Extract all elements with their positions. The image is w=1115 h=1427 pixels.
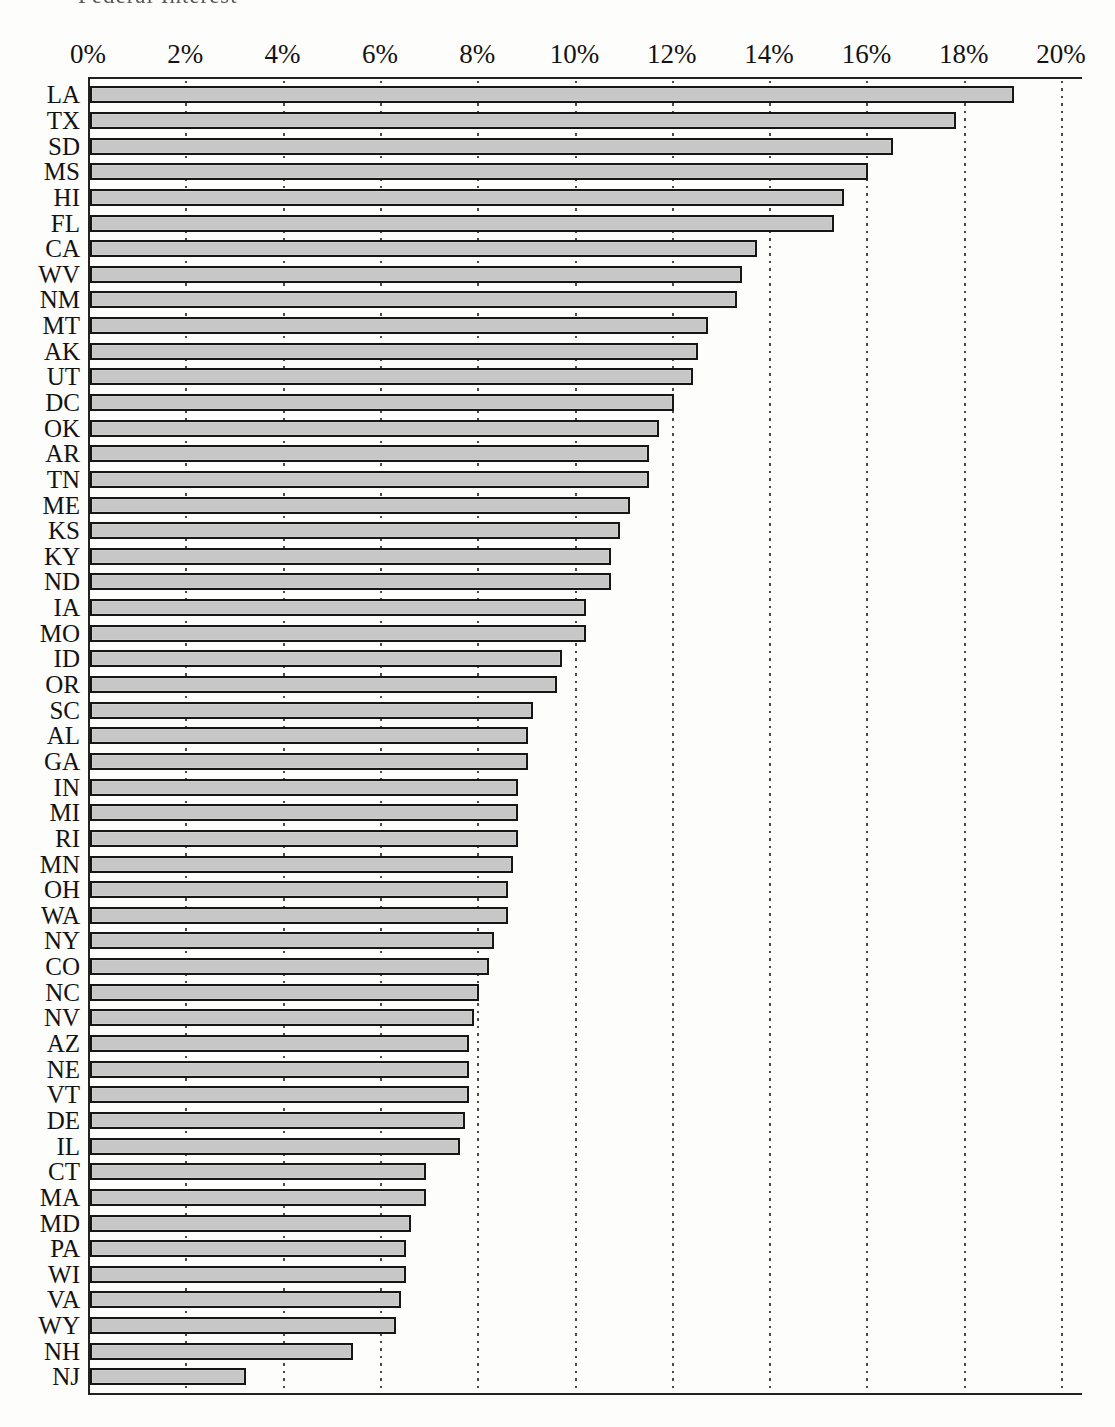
state-label: TN [0, 467, 80, 492]
bar-row: AR [90, 445, 1082, 462]
bar-row: WI [90, 1266, 1082, 1283]
state-label: MS [0, 159, 80, 184]
bar [90, 1266, 406, 1283]
bar [90, 368, 693, 385]
state-label: SC [0, 698, 80, 723]
bar [90, 291, 737, 308]
bar-row: MO [90, 625, 1082, 642]
bar-row: KY [90, 548, 1082, 565]
x-tick-label: 4% [265, 38, 301, 70]
state-label: NM [0, 287, 80, 312]
bar-row: OR [90, 676, 1082, 693]
state-label: IN [0, 775, 80, 800]
bar-row: NY [90, 932, 1082, 949]
bar [90, 317, 708, 334]
bar-row: ID [90, 650, 1082, 667]
bar [90, 625, 586, 642]
bar-row: CO [90, 958, 1082, 975]
bar [90, 727, 528, 744]
bar [90, 932, 494, 949]
plot-area: LA TX SD MS HI FL CA WV NM MT AK [88, 77, 1082, 1395]
bar-row: KS [90, 522, 1082, 539]
state-label: CO [0, 954, 80, 979]
state-label: UT [0, 364, 80, 389]
state-label: MI [0, 800, 80, 825]
state-label: NJ [0, 1364, 80, 1389]
bar [90, 779, 518, 796]
bar [90, 599, 586, 616]
bar-row: IN [90, 779, 1082, 796]
bar [90, 215, 834, 232]
state-label: OR [0, 672, 80, 697]
bar-row: AL [90, 727, 1082, 744]
bar-row: FL [90, 215, 1082, 232]
bar-row: ME [90, 497, 1082, 514]
bar-row: MS [90, 163, 1082, 180]
bar [90, 138, 893, 155]
bar-row: HI [90, 189, 1082, 206]
bar [90, 240, 757, 257]
state-label: OH [0, 877, 80, 902]
bar-row: OH [90, 881, 1082, 898]
bar [90, 1086, 469, 1103]
bar [90, 1035, 469, 1052]
state-label: WY [0, 1313, 80, 1338]
bar-row: NJ [90, 1368, 1082, 1385]
state-label: LA [0, 82, 80, 107]
bar [90, 163, 868, 180]
bar [90, 830, 518, 847]
state-label: WV [0, 262, 80, 287]
bar [90, 86, 1014, 103]
bar-row: SC [90, 702, 1082, 719]
x-tick-label: 20% [1036, 38, 1086, 70]
bar-row: IL [90, 1138, 1082, 1155]
x-tick-label: 14% [744, 38, 794, 70]
bar-row: GA [90, 753, 1082, 770]
state-label: DC [0, 390, 80, 415]
bar-row: DE [90, 1112, 1082, 1129]
bar-row: MD [90, 1215, 1082, 1232]
bar-row: TN [90, 471, 1082, 488]
state-label: MO [0, 621, 80, 646]
state-label: KY [0, 544, 80, 569]
bar [90, 189, 844, 206]
x-tick-label: 0% [70, 38, 106, 70]
state-label: SD [0, 134, 80, 159]
bar [90, 753, 528, 770]
bar-row: WA [90, 907, 1082, 924]
bar [90, 343, 698, 360]
bar [90, 573, 611, 590]
state-label: CT [0, 1159, 80, 1184]
bar [90, 958, 489, 975]
bar-row: AK [90, 343, 1082, 360]
bar [90, 1368, 246, 1385]
state-label: WI [0, 1262, 80, 1287]
state-label: CA [0, 236, 80, 261]
bar [90, 702, 533, 719]
bar-row: WV [90, 266, 1082, 283]
bar-row: OK [90, 420, 1082, 437]
x-tick-label: 12% [647, 38, 697, 70]
bar [90, 266, 742, 283]
state-label: WA [0, 903, 80, 928]
bar-row: VT [90, 1086, 1082, 1103]
state-label: NV [0, 1005, 80, 1030]
x-tick-label: 16% [842, 38, 892, 70]
bar [90, 1163, 426, 1180]
bar [90, 1189, 426, 1206]
state-label: MA [0, 1185, 80, 1210]
bar [90, 1343, 353, 1360]
bar-row: NM [90, 291, 1082, 308]
bar [90, 112, 956, 129]
bar [90, 394, 674, 411]
state-label: AK [0, 339, 80, 364]
state-label: HI [0, 185, 80, 210]
bar-row: IA [90, 599, 1082, 616]
bar-row: NC [90, 984, 1082, 1001]
state-label: MD [0, 1211, 80, 1236]
bar [90, 1009, 474, 1026]
state-label: AL [0, 723, 80, 748]
bar [90, 984, 479, 1001]
bar-row: NV [90, 1009, 1082, 1026]
x-tick-label: 8% [459, 38, 495, 70]
